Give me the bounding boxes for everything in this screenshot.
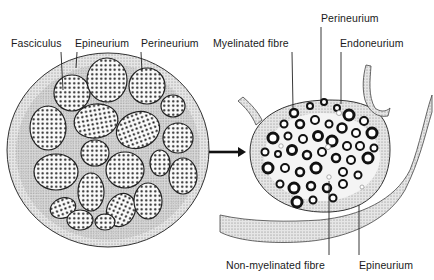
label-perineurium-left: Perineurium (141, 38, 199, 49)
nerve-cross-section (7, 52, 209, 247)
label-epineurium-left: Epineurium (75, 38, 129, 49)
label-perineurium-right: Perineurium (321, 13, 379, 24)
label-non-myelinated-fibre: Non-myelinated fibre (226, 260, 325, 271)
label-myelinated-fibre: Myelinated fibre (213, 38, 289, 49)
label-endoneurium: Endoneurium (340, 38, 404, 49)
fasciculus-detail (220, 27, 432, 255)
label-epineurium-right: Epineurium (359, 260, 413, 271)
right-arrow-icon (209, 147, 246, 157)
label-fasciculus: Fasciculus (11, 38, 62, 49)
